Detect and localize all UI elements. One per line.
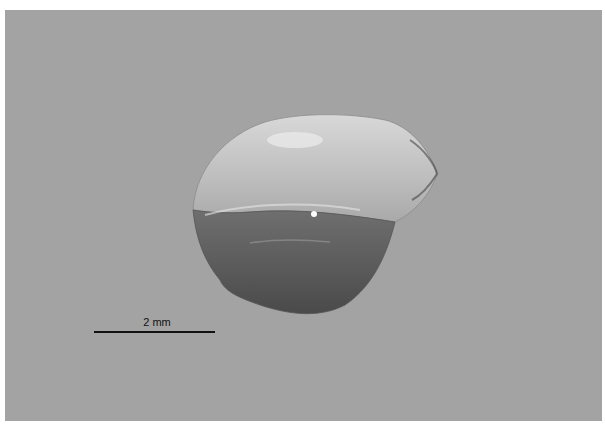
specimen-image: [0, 0, 605, 425]
scale-bar-label: 2 mm: [137, 316, 177, 328]
scale-bar: [94, 331, 215, 333]
